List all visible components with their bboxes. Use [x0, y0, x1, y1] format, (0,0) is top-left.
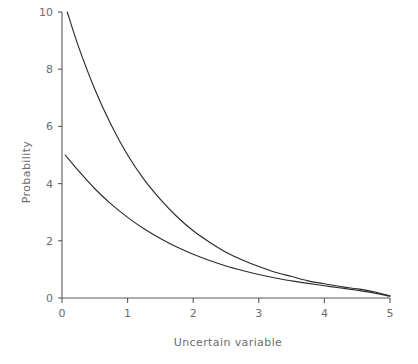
y-tick-label: 2 — [46, 235, 53, 248]
y-axis-ticks — [58, 12, 62, 298]
y-tick-label: 10 — [39, 6, 53, 19]
x-axis-tick-labels: 012345 — [59, 307, 394, 320]
y-tick-label: 6 — [46, 120, 53, 133]
data-series-group — [65, 12, 390, 296]
x-axis-title: Uncertain variable — [174, 336, 283, 349]
lower-decay-curve — [65, 155, 390, 296]
chart-figure: 0246810 012345 Probability Uncertain var… — [0, 0, 418, 364]
y-axis-title: Probability — [20, 141, 33, 204]
x-axis-ticks — [62, 298, 390, 303]
x-tick-label: 0 — [59, 307, 66, 320]
y-axis-tick-labels: 0246810 — [39, 6, 53, 305]
x-tick-label: 2 — [190, 307, 197, 320]
upper-decay-curve — [67, 12, 390, 296]
y-tick-label: 4 — [46, 178, 53, 191]
y-tick-label: 8 — [46, 63, 53, 76]
y-tick-label: 0 — [46, 292, 53, 305]
chart-plot-area: 0246810 012345 Probability Uncertain var… — [0, 0, 418, 364]
x-tick-label: 1 — [124, 307, 131, 320]
x-tick-label: 5 — [387, 307, 394, 320]
x-tick-label: 3 — [255, 307, 262, 320]
x-tick-label: 4 — [321, 307, 328, 320]
